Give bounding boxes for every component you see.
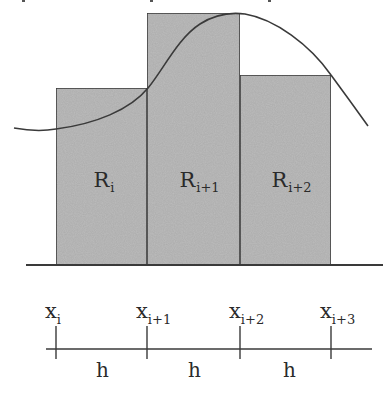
tick-label-2: xi+1 <box>136 299 171 327</box>
interval-label-3: h <box>283 358 296 382</box>
tick-label-4: xi+3 <box>320 299 355 327</box>
rectangle-2 <box>147 13 240 265</box>
riemann-rectangles <box>56 13 331 265</box>
tick-label-1: xi <box>45 299 61 327</box>
tick-label-3: xi+2 <box>229 299 264 327</box>
cutoff-caption <box>22 0 271 2</box>
riemann-sum-diagram: RiRi+1Ri+2 xixi+1xi+2xi+3hhh <box>0 0 387 397</box>
interval-label-2: h <box>188 358 201 382</box>
number-line: xixi+1xi+2xi+3hhh <box>45 299 372 382</box>
interval-label-1: h <box>96 358 109 382</box>
